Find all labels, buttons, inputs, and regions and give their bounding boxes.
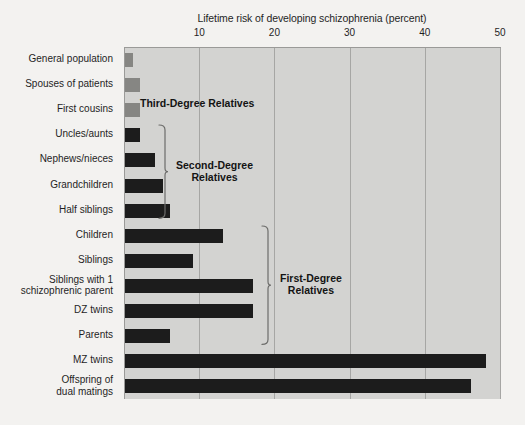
category-label: First cousins	[0, 103, 119, 115]
y-axis-category-labels: General populationSpouses of patientsFir…	[0, 47, 119, 398]
category-label: DZ twins	[0, 304, 119, 316]
x-tick-label-50: 50	[494, 27, 505, 38]
chart-figure: Lifetime risk of developing schizophreni…	[0, 0, 525, 425]
x-axis-tick-labels: 1020304050	[0, 27, 525, 41]
bar	[125, 304, 253, 318]
chart-axis-title: Lifetime risk of developing schizophreni…	[124, 12, 500, 24]
gridline-40	[425, 48, 426, 399]
group-brace	[261, 225, 272, 345]
category-label: Offspring ofdual matings	[0, 374, 119, 397]
x-tick-label-10: 10	[194, 27, 205, 38]
gridline-50	[500, 48, 501, 399]
bar	[125, 179, 163, 193]
bar	[125, 329, 170, 343]
category-label: Siblings with 1schizophrenic parent	[0, 273, 119, 296]
category-label: Nephews/nieces	[0, 154, 119, 166]
category-label: General population	[0, 53, 119, 65]
group-annotation-second: Second-DegreeRelatives	[176, 159, 253, 184]
group-brace	[158, 124, 169, 219]
bar	[125, 254, 193, 268]
gridline-20	[274, 48, 275, 399]
category-label: Half siblings	[0, 204, 119, 216]
bar	[125, 153, 155, 167]
bar	[125, 354, 486, 368]
bar	[125, 279, 253, 293]
category-label: Children	[0, 229, 119, 241]
x-tick-label-30: 30	[344, 27, 355, 38]
bar	[125, 229, 223, 243]
category-label: Grandchildren	[0, 179, 119, 191]
bar	[125, 379, 471, 393]
group-annotation-first: First-DegreeRelatives	[280, 272, 342, 297]
category-label: Siblings	[0, 254, 119, 266]
bar	[125, 128, 140, 142]
category-label: Parents	[0, 329, 119, 341]
category-label: MZ twins	[0, 354, 119, 366]
x-tick-label-40: 40	[419, 27, 430, 38]
group-annotation-third: Third-Degree Relatives	[140, 97, 254, 110]
x-tick-label-20: 20	[269, 27, 280, 38]
bar	[125, 103, 140, 117]
category-label: Spouses of patients	[0, 78, 119, 90]
bar	[125, 78, 140, 92]
gridline-30	[350, 48, 351, 399]
category-label: Uncles/aunts	[0, 129, 119, 141]
bar	[125, 53, 133, 67]
